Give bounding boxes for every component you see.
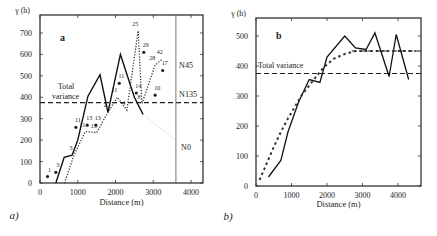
x-tick-label: 4000 [183, 188, 199, 197]
data-point [154, 94, 157, 97]
x-axis-label: Distance (m) [316, 199, 360, 209]
point-label: 8 [137, 94, 140, 100]
n135-label: N135 [179, 90, 197, 99]
y-tick-label: 600 [20, 50, 32, 59]
point-label: 13 [86, 115, 92, 121]
x-tick-label: 0 [254, 191, 258, 200]
n0-label: N0 [181, 143, 191, 152]
data-point [118, 82, 121, 85]
point-label: 3 [69, 145, 72, 151]
point-label: 3 [56, 162, 59, 168]
y-tick-label: 500 [236, 32, 248, 41]
point-label: 42 [157, 49, 163, 55]
point-label: 14 [135, 83, 141, 89]
y-tick-label: 300 [20, 115, 32, 124]
x-tick-label: 1000 [70, 188, 86, 197]
point-label: 28 [149, 55, 155, 61]
point-label: 2 [103, 102, 106, 108]
y-tick-label: 100 [236, 152, 248, 161]
y-tick-label: 0 [244, 182, 248, 191]
y-tick-label: 200 [236, 122, 248, 131]
y-axis-label: γ (h) [14, 6, 30, 15]
y-tick-label: 100 [20, 158, 32, 167]
series-N45 [65, 31, 163, 183]
y-tick-label: 300 [236, 92, 248, 101]
data-point [142, 51, 145, 54]
point-label: 10 [154, 85, 160, 91]
y-tick-label: 700 [20, 29, 32, 38]
x-axis-label: Distance (m) [99, 197, 143, 207]
panel-title: b [276, 30, 282, 41]
point-label: 1 [48, 167, 51, 173]
data-point [54, 171, 57, 174]
y-tick-label: 500 [20, 72, 32, 81]
point-label: 13 [91, 123, 97, 129]
point-label: 13 [95, 115, 101, 121]
y-tick-label: 0 [28, 179, 32, 188]
x-tick-label: 1000 [284, 191, 300, 200]
point-label: 11 [111, 87, 117, 93]
series-model [260, 51, 416, 180]
panel-b [256, 18, 421, 186]
panel-caption: a) [9, 209, 19, 222]
panel-caption: b) [223, 210, 233, 223]
y-tick-label: 400 [236, 62, 248, 71]
point-label: 25 [132, 21, 138, 27]
x-tick-label: 4000 [390, 191, 406, 200]
x-tick-label: 3000 [145, 188, 161, 197]
data-point [161, 69, 164, 72]
data-point [86, 124, 89, 127]
y-axis-label: γ (h) [230, 9, 246, 18]
point-label: 29 [143, 42, 149, 48]
y-tick-label: 400 [20, 93, 32, 102]
point-label: 4 [122, 100, 125, 106]
variogram-figure: 010002000300040000100200300400500600700γ… [0, 0, 437, 236]
panel-title: a [60, 32, 65, 43]
total-variance-label: variance [52, 92, 80, 101]
data-point [74, 126, 77, 129]
data-point [46, 175, 49, 178]
point-label: 11 [75, 117, 81, 123]
series-experimental [268, 33, 408, 177]
n45-label: N45 [179, 61, 193, 70]
total-variance-label: Total variance [258, 61, 304, 70]
x-tick-label: 2000 [108, 188, 124, 197]
x-tick-label: 0 [38, 188, 42, 197]
point-label: 11 [118, 73, 124, 79]
total-variance-label: Total [58, 82, 75, 91]
y-tick-label: 200 [20, 136, 32, 145]
point-label: 17 [162, 60, 168, 66]
